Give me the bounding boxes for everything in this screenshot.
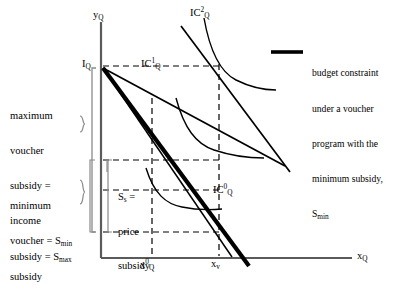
budget-line-flat-extension [181, 26, 290, 172]
legend-line3: program with the [312, 138, 383, 150]
bracket-income-axis [92, 68, 96, 232]
figure-container: yQ xQ IQ x0Q xv IC2Q IC1Q IC0Q maximum v… [0, 0, 419, 300]
max-subsidy-line2: voucher [10, 145, 72, 157]
bracket-price-subsidy [108, 160, 112, 232]
ic1-label: IC1Q [141, 57, 160, 71]
price-subsidy-line3: subsidy [118, 260, 150, 271]
y-axis-label: yQ [93, 9, 104, 22]
max-subsidy-line1: maximum [10, 110, 72, 122]
min-subsidy-line3: subsidy [10, 271, 72, 283]
indifference-curve-ic0 [146, 168, 222, 210]
min-subsidy-line2: voucher = Smin [10, 235, 72, 248]
legend-line5: Smin [312, 208, 383, 222]
brace-max-subsidy [80, 116, 85, 132]
indifference-curve-ic2 [204, 18, 276, 90]
price-subsidy-line2: price [118, 226, 150, 237]
x-axis-label: xQ [357, 250, 368, 263]
legend-line1: budget constraint [312, 67, 383, 79]
ic2-label: IC2Q [190, 6, 209, 20]
income-intercept-label: IQ [82, 58, 91, 71]
ic0-label: IC0Q [213, 183, 232, 197]
price-subsidy-line1: Ss = [118, 191, 150, 204]
brace-min-subsidy [80, 180, 85, 204]
budget-line-flat [103, 68, 285, 166]
indifference-curve-ic1 [176, 98, 264, 158]
price-subsidy-annotation: Ss = price subsidy [118, 168, 150, 294]
min-subsidy-line1: minimum [10, 200, 72, 212]
x-voucher-quantity-label: xv [211, 258, 220, 271]
legend-line2: under a voucher [312, 103, 383, 115]
legend-text: budget constraint under a voucher progra… [312, 44, 383, 245]
legend-line4: minimum subsidy, [312, 173, 383, 185]
min-subsidy-annotation: minimum voucher = Smin subsidy [10, 176, 72, 300]
